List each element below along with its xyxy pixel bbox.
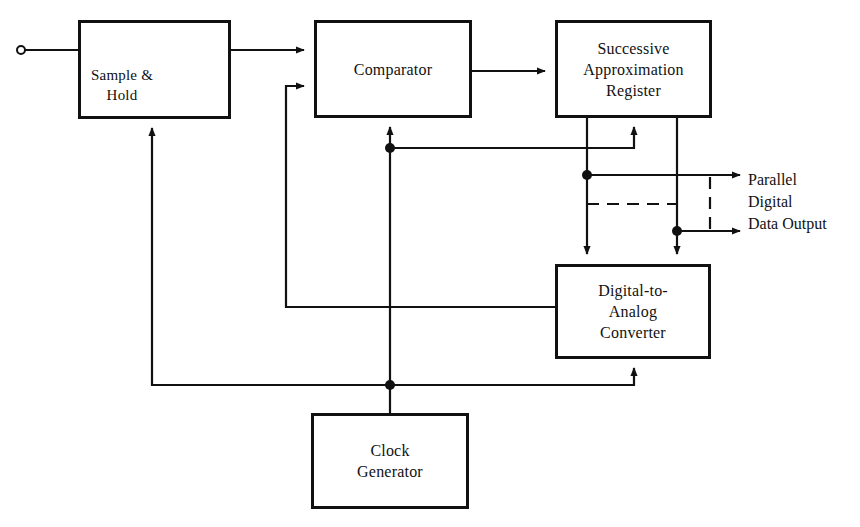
input-terminal-icon — [17, 46, 25, 54]
clock-to-sar-wire — [390, 127, 634, 148]
block-label: Comparator — [354, 59, 432, 80]
dac-to-comparator-wire — [286, 86, 555, 307]
output-label: Parallel Digital Data Output — [748, 169, 827, 235]
block-label: Register — [583, 80, 683, 101]
block-label: Digital-to- — [598, 280, 668, 301]
sample-hold-block: Sample & Hold — [78, 20, 231, 119]
output-label-line: Digital — [748, 191, 827, 213]
block-label: Approximation — [583, 59, 683, 80]
clock-generator-block: Clock Generator — [311, 413, 469, 509]
block-label: Converter — [598, 322, 668, 343]
dac-block: Digital-to- Analog Converter — [555, 264, 711, 359]
comparator-block: Comparator — [314, 20, 472, 118]
clock-to-dac-wire — [390, 368, 634, 385]
block-label: Generator — [357, 461, 423, 482]
clock-to-sh-wire — [152, 128, 390, 385]
output-label-line: Parallel — [748, 169, 827, 191]
block-label: Sample & — [91, 65, 153, 85]
block-label: Clock — [357, 440, 423, 461]
block-label: Hold — [91, 85, 153, 105]
sar-block: Successive Approximation Register — [555, 20, 712, 118]
block-label: Analog — [598, 301, 668, 322]
output-label-line: Data Output — [748, 213, 827, 235]
block-label: Successive — [583, 38, 683, 59]
